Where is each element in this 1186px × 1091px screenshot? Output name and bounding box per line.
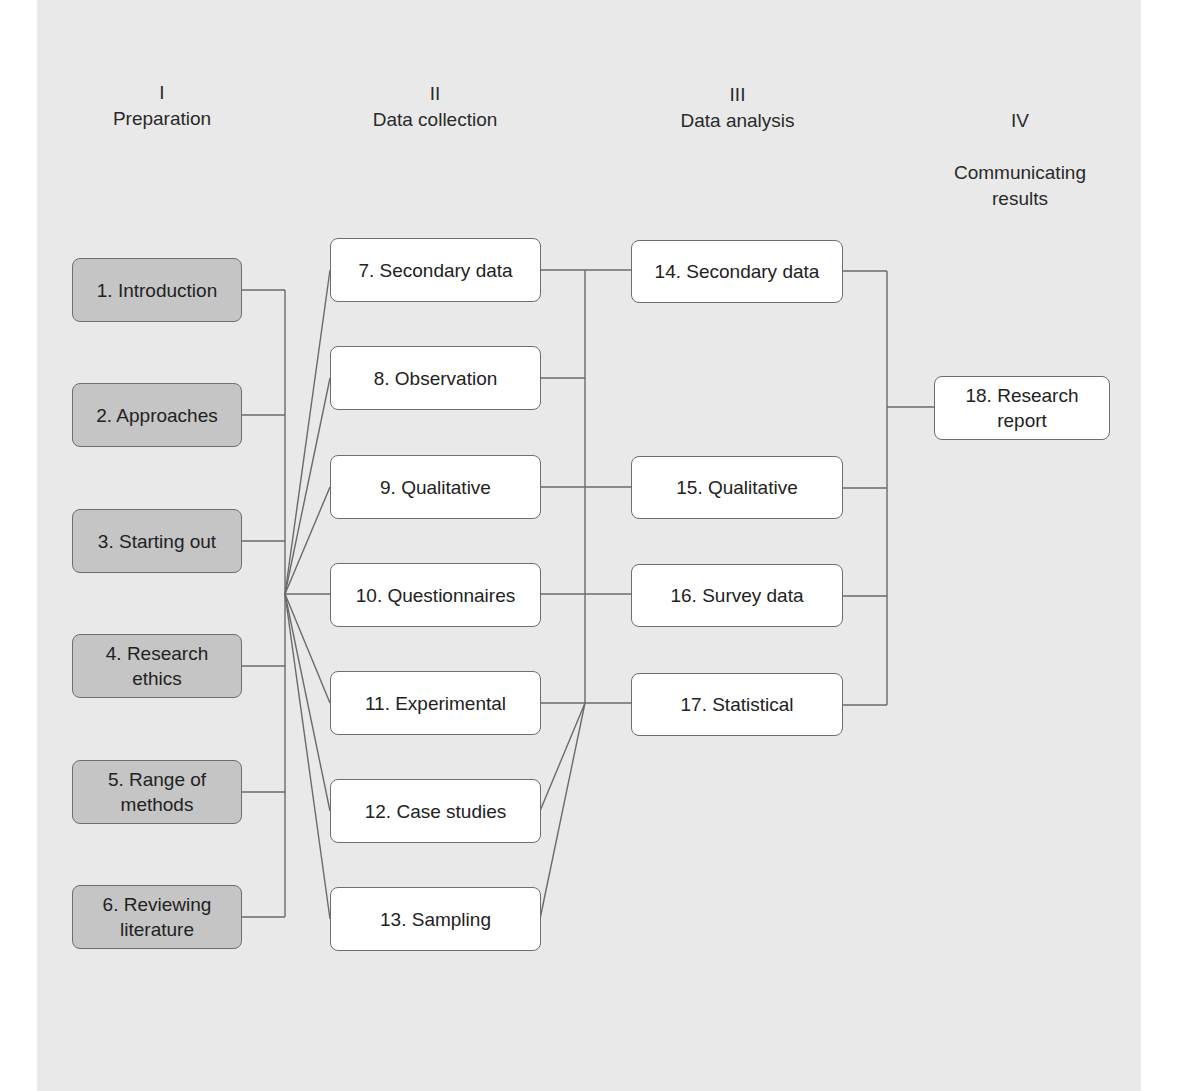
box-experimental: 11. Experimental xyxy=(330,671,541,735)
phase-numeral: IV xyxy=(935,108,1105,134)
box-label: 4. Research ethics xyxy=(106,641,208,691)
box-label: 9. Qualitative xyxy=(380,475,491,500)
box-survey-data: 16. Survey data xyxy=(631,564,843,627)
box-label: 8. Observation xyxy=(374,366,498,391)
box-observation: 8. Observation xyxy=(330,346,541,410)
box-label: 6. Reviewing literature xyxy=(103,892,212,942)
box-statistical: 17. Statistical xyxy=(631,673,843,736)
box-label: 17. Statistical xyxy=(681,692,794,717)
box-label: 14. Secondary data xyxy=(655,259,820,284)
box-label: 12. Case studies xyxy=(365,799,507,824)
phase-heading-data-analysis: III Data analysis xyxy=(660,82,815,134)
box-label: 2. Approaches xyxy=(96,403,217,428)
box-qualitative-analysis: 15. Qualitative xyxy=(631,456,843,519)
phase-numeral: III xyxy=(660,82,815,108)
phase-heading-communicating-results: IV Communicating results xyxy=(935,82,1105,238)
box-introduction: 1. Introduction xyxy=(72,258,242,322)
box-research-ethics: 4. Research ethics xyxy=(72,634,242,698)
box-reviewing-literature: 6. Reviewing literature xyxy=(72,885,242,949)
box-label: 7. Secondary data xyxy=(358,258,512,283)
box-label: 15. Qualitative xyxy=(676,475,797,500)
box-label: 10. Questionnaires xyxy=(356,583,516,608)
phase-numeral: I xyxy=(92,80,232,106)
box-label: 1. Introduction xyxy=(97,278,217,303)
box-questionnaires: 10. Questionnaires xyxy=(330,563,541,627)
phase-title: Data analysis xyxy=(660,108,815,134)
box-secondary-data-analysis: 14. Secondary data xyxy=(631,240,843,303)
box-label: 5. Range of methods xyxy=(108,767,206,817)
box-case-studies: 12. Case studies xyxy=(330,779,541,843)
box-sampling: 13. Sampling xyxy=(330,887,541,951)
box-starting-out: 3. Starting out xyxy=(72,509,242,573)
box-label: 18. Research report xyxy=(965,383,1078,433)
box-label: 11. Experimental xyxy=(365,691,506,716)
box-range-of-methods: 5. Range of methods xyxy=(72,760,242,824)
box-qualitative-collection: 9. Qualitative xyxy=(330,455,541,519)
box-label: 13. Sampling xyxy=(380,907,491,932)
box-label: 16. Survey data xyxy=(670,583,803,608)
phase-heading-data-collection: II Data collection xyxy=(355,81,515,133)
phase-heading-preparation: I Preparation xyxy=(92,80,232,132)
phase-numeral: II xyxy=(355,81,515,107)
phase-title: Data collection xyxy=(355,107,515,133)
phase-title: Communicating results xyxy=(935,160,1105,212)
box-label: 3. Starting out xyxy=(98,529,216,554)
box-approaches: 2. Approaches xyxy=(72,383,242,447)
box-secondary-data-collection: 7. Secondary data xyxy=(330,238,541,302)
box-research-report: 18. Research report xyxy=(934,376,1110,440)
phase-title: Preparation xyxy=(92,106,232,132)
